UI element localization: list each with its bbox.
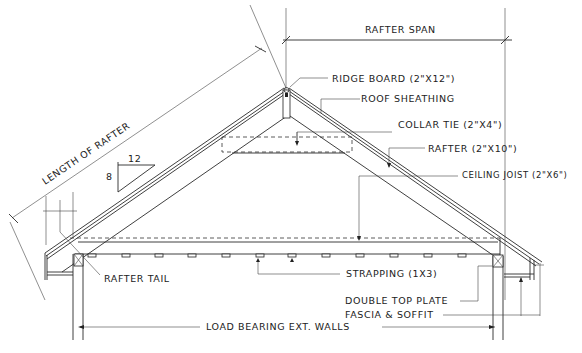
- rafter-callout: RAFTER (2"X10"): [387, 143, 517, 168]
- ridge-board-label: RIDGE BOARD (2"X12"): [332, 73, 455, 84]
- pitch-run-label: 12: [128, 153, 141, 164]
- right-eave: [504, 258, 544, 316]
- strapping-label: STRAPPING (1X3): [346, 268, 437, 279]
- ceiling-joist-callout: CEILING JOIST (2"X6"): [357, 170, 567, 241]
- ceiling-joist-label: CEILING JOIST (2"X6"): [462, 170, 567, 180]
- length-of-rafter-dimension: LENGTH OF RAFTER: [9, 5, 286, 300]
- rafter-span-label: RAFTER SPAN: [365, 24, 436, 35]
- roof-rafters: [45, 88, 542, 272]
- double-top-plate-label: DOUBLE TOP PLATE: [345, 295, 448, 306]
- left-eave: [43, 192, 100, 280]
- strapping-callout: STRAPPING (1X3): [258, 262, 437, 279]
- fascia-soffit-label: FASCIA & SOFFIT: [345, 309, 434, 320]
- collar-tie-label: COLLAR TIE (2"X4"): [398, 119, 502, 130]
- load-bearing-walls-label: LOAD BEARING EXT. WALLS: [206, 321, 350, 332]
- rafter-tail-label: RAFTER TAIL: [104, 273, 170, 284]
- ridge-board-callout: RIDGE BOARD (2"X12"): [290, 73, 455, 87]
- collar-tie: [222, 132, 352, 153]
- load-bearing-walls-callout: LOAD BEARING EXT. WALLS: [78, 321, 495, 332]
- rafter-tail-callout: RAFTER TAIL: [104, 273, 170, 284]
- ridge-board: [283, 88, 290, 119]
- strapping: [88, 254, 466, 262]
- pitch-rise-label: 8: [106, 171, 113, 182]
- roof-framing-diagram: RAFTER SPAN LENGTH OF RAFTER 12 8: [0, 0, 582, 353]
- ceiling-joist: [70, 238, 500, 256]
- rafter-label: RAFTER (2"X10"): [428, 143, 517, 154]
- roof-sheathing-callout: ROOF SHEATHING: [321, 93, 455, 113]
- roof-sheathing-label: ROOF SHEATHING: [361, 93, 455, 104]
- fascia-soffit-callout: FASCIA & SOFFIT: [345, 309, 540, 320]
